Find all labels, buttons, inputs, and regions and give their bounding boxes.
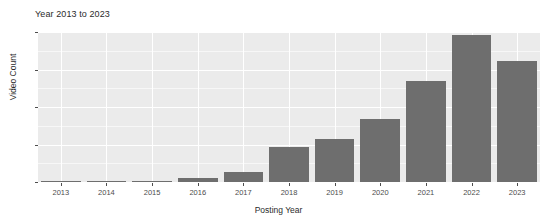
x-tick-mark xyxy=(152,183,153,186)
bar-2018[interactable] xyxy=(269,147,309,182)
plot-panel xyxy=(38,32,540,182)
x-tick-label-2017: 2017 xyxy=(235,188,252,197)
y-tick-mark xyxy=(35,32,38,33)
bar-2014[interactable] xyxy=(87,181,127,183)
x-tick-label-2020: 2020 xyxy=(372,188,389,197)
chart-title: Year 2013 to 2023 xyxy=(35,9,110,19)
x-tick-label-2015: 2015 xyxy=(144,188,161,197)
x-tick-label-2018: 2018 xyxy=(281,188,298,197)
y-tick-mark xyxy=(35,70,38,71)
y-axis-title: Video Count xyxy=(8,37,18,117)
x-tick-mark xyxy=(426,183,427,186)
bar-2021[interactable] xyxy=(406,81,446,182)
bar-2019[interactable] xyxy=(315,139,355,182)
x-tick-mark xyxy=(335,183,336,186)
bar-2015[interactable] xyxy=(132,181,172,183)
x-tick-mark xyxy=(61,183,62,186)
bars-group xyxy=(38,32,540,182)
bar-2022[interactable] xyxy=(452,35,492,182)
x-tick-mark xyxy=(472,183,473,186)
x-tick-label-2014: 2014 xyxy=(98,188,115,197)
bar-2017[interactable] xyxy=(224,172,264,183)
bar-2013[interactable] xyxy=(41,181,81,183)
x-tick-label-2016: 2016 xyxy=(189,188,206,197)
bar-2020[interactable] xyxy=(360,119,400,182)
x-axis-title: Posting Year xyxy=(0,205,557,215)
x-tick-label-2019: 2019 xyxy=(326,188,343,197)
x-tick-mark xyxy=(106,183,107,186)
x-tick-label-2013: 2013 xyxy=(52,188,69,197)
x-tick-mark xyxy=(289,183,290,186)
x-tick-mark xyxy=(198,183,199,186)
x-tick-label-2021: 2021 xyxy=(418,188,435,197)
x-tick-mark xyxy=(380,183,381,186)
y-tick-mark xyxy=(35,182,38,183)
y-tick-mark xyxy=(35,107,38,108)
x-tick-label-2023: 2023 xyxy=(509,188,526,197)
bar-2023[interactable] xyxy=(497,61,537,183)
x-tick-mark xyxy=(517,183,518,186)
x-tick-label-2022: 2022 xyxy=(463,188,480,197)
bar-2016[interactable] xyxy=(178,178,218,183)
x-tick-mark xyxy=(243,183,244,186)
bar-chart: Year 2013 to 2023 Video Count 0501001502… xyxy=(0,0,557,223)
y-tick-mark xyxy=(35,145,38,146)
